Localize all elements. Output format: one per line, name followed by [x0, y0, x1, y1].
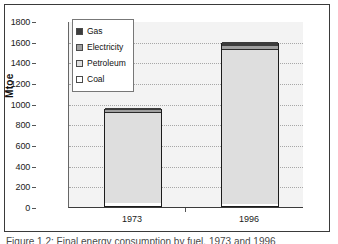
y-axis: Mtoe 1800 1600 1400 1200 1000 800 600 40… [0, 0, 68, 244]
y-tick-label-1000: 1000 [0, 101, 30, 110]
y-tick-mark-1600 [32, 43, 36, 44]
x-tick-mark-mid [185, 208, 186, 212]
y-tick-label-1400: 1400 [0, 59, 30, 68]
y-tick-label-1600: 1600 [0, 39, 30, 48]
legend-item-gas[interactable]: Gas [76, 23, 130, 39]
legend-item-petroleum[interactable]: Petroleum [76, 55, 130, 71]
legend-label-gas: Gas [87, 27, 103, 36]
y-tick-label-1800: 1800 [0, 18, 30, 27]
legend-label-electricity: Electricity [87, 43, 123, 52]
bar-segment-1973-electricity [105, 110, 161, 111]
legend-swatch-gas-icon [76, 28, 83, 35]
x-tick-label-1973: 1973 [97, 214, 167, 224]
bar-1973[interactable] [104, 109, 162, 207]
chart-figure: Mtoe 1800 1600 1400 1200 1000 800 600 40… [0, 0, 338, 244]
y-tick-label-600: 600 [0, 142, 30, 151]
figure-caption: Figure 1.2: Final energy consumption by … [6, 236, 332, 244]
y-tick-mark-1000 [32, 105, 36, 106]
y-tick-mark-600 [32, 146, 36, 147]
bar-1996[interactable] [221, 43, 279, 207]
chart-legend[interactable]: Gas Electricity Petroleum Coal [72, 19, 134, 92]
y-tick-mark-0 [32, 208, 36, 209]
y-tick-label-0: 0 [0, 204, 30, 213]
y-tick-mark-800 [32, 125, 36, 126]
y-tick-label-800: 800 [0, 121, 30, 130]
y-tick-label-200: 200 [0, 183, 30, 192]
bar-segment-1996-electricity [222, 46, 278, 49]
legend-item-coal[interactable]: Coal [76, 71, 130, 87]
y-tick-mark-400 [32, 167, 36, 168]
y-tick-mark-1400 [32, 63, 36, 64]
bar-segment-1973-coal [105, 203, 161, 206]
bar-segment-1973-petroleum [105, 112, 161, 204]
y-tick-mark-1800 [32, 22, 36, 23]
legend-swatch-petroleum-icon [76, 60, 83, 67]
legend-swatch-electricity-icon [76, 44, 83, 51]
legend-label-coal: Coal [87, 75, 104, 84]
y-tick-label-400: 400 [0, 163, 30, 172]
legend-item-electricity[interactable]: Electricity [76, 39, 130, 55]
y-tick-mark-1200 [32, 84, 36, 85]
bar-segment-1996-gas [222, 42, 278, 46]
bar-segment-1996-coal [222, 204, 278, 206]
y-tick-mark-200 [32, 187, 36, 188]
legend-swatch-coal-icon [76, 76, 83, 83]
legend-label-petroleum: Petroleum [87, 59, 126, 68]
y-tick-label-1200: 1200 [0, 80, 30, 89]
bar-segment-1973-gas [105, 108, 161, 110]
bar-segment-1996-petroleum [222, 49, 278, 204]
x-tick-label-1996: 1996 [214, 214, 284, 224]
